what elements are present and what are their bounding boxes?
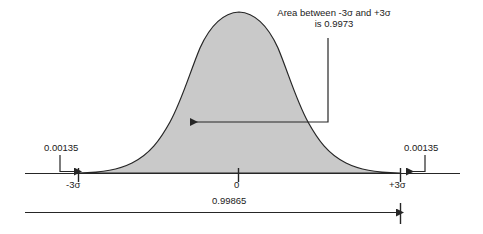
axis-tick-label-minus-3-sigma: -3σ xyxy=(66,180,80,191)
area-annotation-line2: is 0.9973 xyxy=(315,18,354,29)
axis-tick-label-plus-3-sigma: +3σ xyxy=(389,180,406,191)
left-tail-leader xyxy=(60,155,74,172)
left-tail-area-label: 0.00135 xyxy=(44,143,78,154)
normal-distribution-figure: Area between -3σ and +3σ is 0.9973 0.001… xyxy=(0,0,483,234)
right-tail-leader xyxy=(406,155,425,172)
area-annotation-line1: Area between -3σ and +3σ xyxy=(277,7,390,18)
axis-tick-label-zero: 0 xyxy=(234,180,239,191)
normal-curve-area xyxy=(78,12,400,173)
area-annotation: Area between -3σ and +3σ is 0.9973 xyxy=(268,8,400,30)
cumulative-area-label: 0.99865 xyxy=(212,196,246,207)
right-tail-area-label: 0.00135 xyxy=(404,143,438,154)
